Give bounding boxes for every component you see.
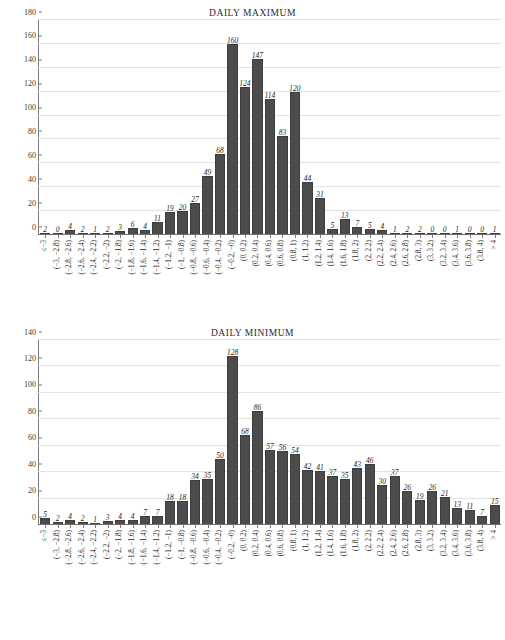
bar-cell[interactable]: 43 [351, 340, 363, 525]
bar-cell[interactable]: 13 [339, 20, 351, 235]
bar[interactable]: 27 [190, 203, 200, 235]
bar-cell[interactable]: 35 [201, 340, 213, 525]
bar[interactable]: 46 [365, 464, 375, 525]
bar-cell[interactable]: 5 [326, 20, 338, 235]
bar[interactable]: 19 [415, 500, 425, 525]
bar[interactable]: 35 [202, 479, 212, 525]
bar[interactable]: 26 [402, 491, 412, 525]
bar[interactable]: 124 [240, 87, 250, 235]
bar-cell[interactable]: 41 [314, 340, 326, 525]
bar-cell[interactable]: 4 [126, 340, 138, 525]
bar[interactable]: 54 [290, 454, 300, 525]
bar[interactable]: 18 [177, 501, 187, 525]
bar[interactable]: 31 [315, 198, 325, 235]
bar[interactable]: 13 [340, 219, 350, 235]
bar[interactable]: 11 [465, 510, 475, 525]
bar-cell[interactable]: 37 [326, 340, 338, 525]
bar[interactable]: 30 [377, 485, 387, 525]
bar-cell[interactable]: 1 [451, 20, 463, 235]
bar[interactable]: 68 [240, 435, 250, 525]
bar-cell[interactable]: 2 [401, 20, 413, 235]
bar-cell[interactable]: 114 [264, 20, 276, 235]
bar[interactable]: 42 [302, 470, 312, 526]
bar-cell[interactable]: 57 [264, 340, 276, 525]
bar-cell[interactable]: 2 [76, 340, 88, 525]
bar-cell[interactable]: 0 [463, 20, 475, 235]
bar[interactable]: 20 [177, 211, 187, 235]
bar-cell[interactable]: 42 [301, 340, 313, 525]
bar-cell[interactable]: 147 [251, 20, 263, 235]
bar[interactable]: 86 [252, 411, 262, 525]
bar-cell[interactable]: 1 [389, 20, 401, 235]
bar-cell[interactable]: 4 [139, 20, 151, 235]
bar-cell[interactable]: 11 [463, 340, 475, 525]
bar[interactable]: 160 [227, 44, 237, 235]
bar-cell[interactable]: 86 [251, 340, 263, 525]
bar[interactable]: 37 [327, 476, 337, 525]
bar[interactable]: 44 [302, 182, 312, 235]
bar-cell[interactable]: 1 [488, 20, 500, 235]
bar-cell[interactable]: 26 [401, 340, 413, 525]
bar-cell[interactable]: 3 [114, 20, 126, 235]
bar[interactable]: 83 [277, 136, 287, 235]
bar[interactable]: 57 [265, 450, 275, 525]
bar-cell[interactable]: 1 [89, 20, 101, 235]
bar-cell[interactable]: 49 [201, 20, 213, 235]
bar[interactable]: 120 [290, 92, 300, 235]
bar-cell[interactable]: 4 [64, 20, 76, 235]
bar[interactable]: 147 [252, 59, 262, 235]
bar-cell[interactable]: 54 [289, 340, 301, 525]
bar-cell[interactable]: 3 [101, 340, 113, 525]
bar-cell[interactable]: 124 [239, 20, 251, 235]
bar-cell[interactable]: 0 [51, 20, 63, 235]
bar-cell[interactable]: 21 [439, 340, 451, 525]
bar-cell[interactable]: 160 [226, 20, 238, 235]
bar[interactable]: 19 [165, 212, 175, 235]
bar-cell[interactable]: 6 [126, 20, 138, 235]
bar[interactable]: 34 [190, 480, 200, 525]
bar-cell[interactable]: 44 [301, 20, 313, 235]
bar-cell[interactable]: 35 [339, 340, 351, 525]
bar-cell[interactable]: 7 [151, 340, 163, 525]
bar-cell[interactable]: 19 [164, 20, 176, 235]
bar-cell[interactable]: 37 [389, 340, 401, 525]
bar-cell[interactable]: 26 [426, 340, 438, 525]
bar-cell[interactable]: 68 [214, 20, 226, 235]
bar-cell[interactable]: 83 [276, 20, 288, 235]
bar[interactable]: 37 [390, 476, 400, 525]
bar-cell[interactable]: 4 [376, 20, 388, 235]
bar-cell[interactable]: 2 [414, 20, 426, 235]
bar[interactable]: 21 [440, 497, 450, 525]
bar[interactable]: 41 [315, 471, 325, 525]
bar[interactable]: 50 [215, 459, 225, 525]
bar-cell[interactable]: 2 [76, 20, 88, 235]
bar-cell[interactable]: 20 [176, 20, 188, 235]
bar-cell[interactable]: 5 [39, 340, 51, 525]
bar-cell[interactable]: 11 [151, 20, 163, 235]
bar-cell[interactable]: 0 [439, 20, 451, 235]
bar-cell[interactable]: 2 [39, 20, 51, 235]
bar-cell[interactable]: 7 [476, 340, 488, 525]
bar-cell[interactable]: 1 [89, 340, 101, 525]
bar-cell[interactable]: 4 [114, 340, 126, 525]
bar[interactable]: 68 [215, 154, 225, 235]
bar-cell[interactable]: 50 [214, 340, 226, 525]
bar-cell[interactable]: 13 [451, 340, 463, 525]
bar-cell[interactable]: 7 [139, 340, 151, 525]
bar[interactable]: 49 [202, 176, 212, 235]
bar[interactable]: 13 [452, 508, 462, 525]
bar-cell[interactable]: 46 [364, 340, 376, 525]
bar-cell[interactable]: 7 [351, 20, 363, 235]
bar-cell[interactable]: 0 [476, 20, 488, 235]
bar[interactable]: 56 [277, 451, 287, 525]
bar-cell[interactable]: 15 [488, 340, 500, 525]
bar[interactable]: 114 [265, 99, 275, 235]
bar-cell[interactable]: 18 [164, 340, 176, 525]
bar[interactable]: 43 [352, 468, 362, 525]
bar-cell[interactable]: 56 [276, 340, 288, 525]
bar-cell[interactable]: 18 [176, 340, 188, 525]
bar-cell[interactable]: 4 [64, 340, 76, 525]
bar-cell[interactable]: 5 [364, 20, 376, 235]
bar-cell[interactable]: 0 [426, 20, 438, 235]
bar[interactable]: 18 [165, 501, 175, 525]
